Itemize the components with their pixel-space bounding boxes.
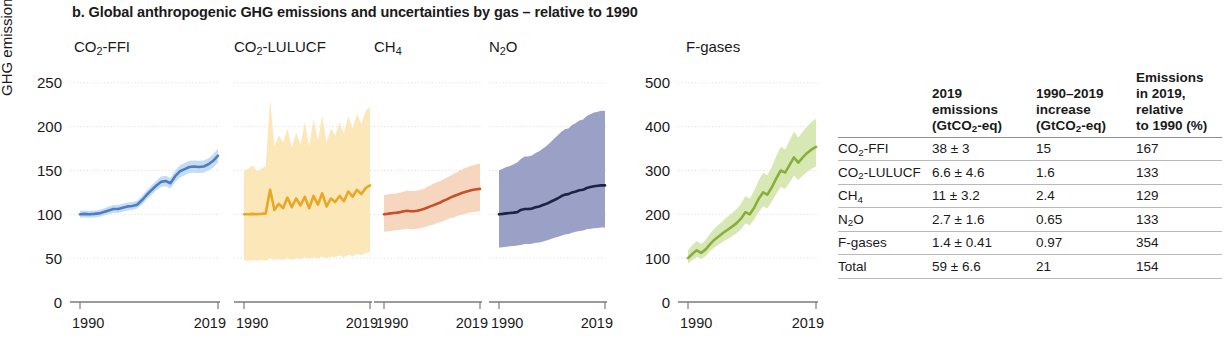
x-axis-tick: 1990 bbox=[680, 315, 712, 331]
y-axis-tick: 0 bbox=[662, 294, 670, 311]
uncertainty-band bbox=[384, 163, 480, 231]
y-axis-tick: 100 bbox=[37, 206, 62, 223]
x-axis-tick: 1990 bbox=[491, 315, 523, 331]
y-axis-tick: 500 bbox=[645, 74, 670, 91]
cell-increase-1990-2019: 0.97 bbox=[1036, 231, 1136, 255]
panel-title-co2-ffi: CO2-FFI bbox=[74, 38, 130, 55]
panel-title-n2o: N2O bbox=[489, 38, 518, 55]
cell-relative-to-1990: 154 bbox=[1136, 255, 1222, 279]
cell-gas-label: CO2-LULUCF bbox=[838, 161, 932, 185]
cell-gas-label: F-gases bbox=[838, 231, 932, 255]
cell-gas-label: Total bbox=[838, 255, 932, 279]
panel-title-f-gases: F-gases bbox=[686, 38, 740, 55]
cell-increase-1990-2019: 0.65 bbox=[1036, 208, 1136, 232]
panel-title-ch4: CH4 bbox=[374, 38, 402, 55]
y-axis-tick: 200 bbox=[37, 118, 62, 135]
y-axis-tick: 300 bbox=[645, 162, 670, 179]
x-axis-tick: 1990 bbox=[376, 315, 408, 331]
summary-table: 2019emissions(GtCO2-eq) 1990–2019increas… bbox=[838, 70, 1222, 279]
uncertainty-band bbox=[688, 119, 816, 264]
x-axis-tick: 1990 bbox=[236, 315, 268, 331]
y-axis-tick: 150 bbox=[37, 162, 62, 179]
cell-gas-label: CH4 bbox=[838, 184, 932, 208]
column-header-gas bbox=[838, 70, 932, 137]
cell-gas-label: CO2-FFI bbox=[838, 137, 932, 161]
cell-relative-to-1990: 129 bbox=[1136, 184, 1222, 208]
cell-emissions-2019: 1.4 ± 0.41 bbox=[932, 231, 1036, 255]
table-body: CO2-FFI38 ± 315167CO2-LULUCF6.6 ± 4.61.6… bbox=[838, 137, 1222, 278]
uncertainty-band bbox=[499, 111, 605, 248]
chart-panel-n2o: N2O19902019 bbox=[487, 30, 665, 340]
table-row: CH411 ± 3.22.4129 bbox=[838, 184, 1222, 208]
table-row: F-gases1.4 ± 0.410.97354 bbox=[838, 231, 1222, 255]
column-header-relative: Emissionsin 2019,relativeto 1990 (%) bbox=[1136, 70, 1222, 137]
x-axis-tick: 2019 bbox=[194, 315, 226, 331]
y-axis-tick: 200 bbox=[645, 206, 670, 223]
y-axis-label: GHG emissions (%) bbox=[0, 0, 15, 96]
cell-relative-to-1990: 167 bbox=[1136, 137, 1222, 161]
cell-relative-to-1990: 133 bbox=[1136, 161, 1222, 185]
x-axis-tick: 1990 bbox=[72, 315, 104, 331]
cell-emissions-2019: 11 ± 3.2 bbox=[932, 184, 1036, 208]
cell-emissions-2019: 59 ± 6.6 bbox=[932, 255, 1036, 279]
cell-emissions-2019: 2.7 ± 1.6 bbox=[932, 208, 1036, 232]
y-axis-tick: 50 bbox=[45, 250, 62, 267]
cell-increase-1990-2019: 1.6 bbox=[1036, 161, 1136, 185]
cell-increase-1990-2019: 2.4 bbox=[1036, 184, 1136, 208]
summary-table-container: 2019emissions(GtCO2-eq) 1990–2019increas… bbox=[838, 70, 1222, 279]
y-axis-tick: 100 bbox=[645, 250, 670, 267]
y-axis-tick: 400 bbox=[645, 118, 670, 135]
uncertainty-band bbox=[244, 100, 370, 260]
table-head: 2019emissions(GtCO2-eq) 1990–2019increas… bbox=[838, 70, 1222, 137]
cell-gas-label: N2O bbox=[838, 208, 932, 232]
panel-title-co2-lulucf: CO2-LULUCF bbox=[234, 38, 326, 55]
cell-increase-1990-2019: 15 bbox=[1036, 137, 1136, 161]
table-row: CO2-FFI38 ± 315167 bbox=[838, 137, 1222, 161]
y-axis-tick: 0 bbox=[54, 294, 62, 311]
table-row: N2O2.7 ± 1.60.65133 bbox=[838, 208, 1222, 232]
cell-emissions-2019: 38 ± 3 bbox=[932, 137, 1036, 161]
cell-relative-to-1990: 133 bbox=[1136, 208, 1222, 232]
plot-n2o: 19902019 bbox=[487, 30, 665, 330]
table-header-row: 2019emissions(GtCO2-eq) 1990–2019increas… bbox=[838, 70, 1222, 137]
cell-relative-to-1990: 354 bbox=[1136, 231, 1222, 255]
y-axis-tick: 250 bbox=[37, 74, 62, 91]
x-axis-tick: 2019 bbox=[792, 315, 824, 331]
table-row: Total59 ± 6.621154 bbox=[838, 255, 1222, 279]
table-row: CO2-LULUCF6.6 ± 4.61.6133 bbox=[838, 161, 1222, 185]
column-header-increase: 1990–2019increase(GtCO2-eq) bbox=[1036, 70, 1136, 137]
cell-emissions-2019: 6.6 ± 4.6 bbox=[932, 161, 1036, 185]
figure-title: b. Global anthropogenic GHG emissions an… bbox=[72, 4, 638, 20]
uncertainty-band bbox=[80, 149, 218, 218]
x-axis-tick: 2019 bbox=[581, 315, 613, 331]
figure-panel-b: b. Global anthropogenic GHG emissions an… bbox=[0, 0, 1229, 348]
x-axis-tick: 2019 bbox=[456, 315, 488, 331]
cell-increase-1990-2019: 21 bbox=[1036, 255, 1136, 279]
column-header-2019-emissions: 2019emissions(GtCO2-eq) bbox=[932, 70, 1036, 137]
